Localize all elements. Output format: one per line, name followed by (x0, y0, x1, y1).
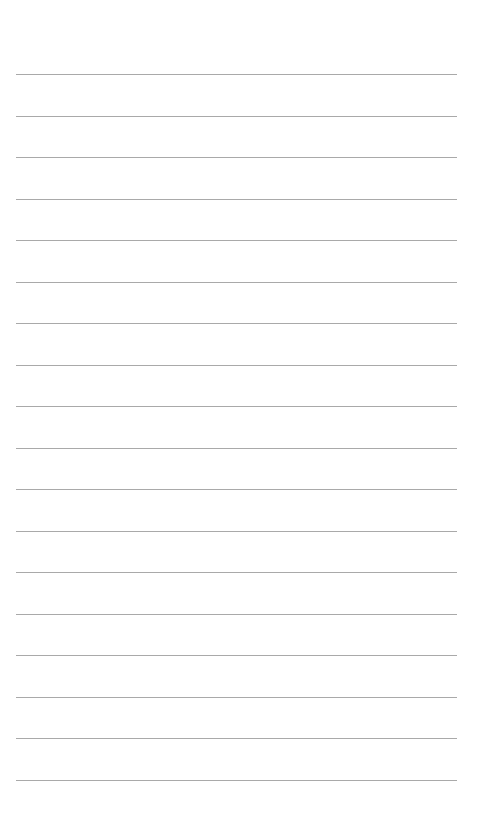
ruled-line (16, 531, 457, 532)
ruled-line (16, 157, 457, 158)
ruled-line (16, 74, 457, 75)
ruled-line (16, 614, 457, 615)
ruled-line (16, 406, 457, 407)
ruled-line (16, 489, 457, 490)
lined-paper-page (0, 0, 479, 816)
ruled-line (16, 572, 457, 573)
ruled-line (16, 738, 457, 739)
ruled-line (16, 780, 457, 781)
ruled-line (16, 448, 457, 449)
ruled-line (16, 365, 457, 366)
ruled-line (16, 116, 457, 117)
ruled-line (16, 323, 457, 324)
ruled-line (16, 655, 457, 656)
ruled-line (16, 199, 457, 200)
ruled-line (16, 697, 457, 698)
ruled-line (16, 282, 457, 283)
ruled-line (16, 240, 457, 241)
